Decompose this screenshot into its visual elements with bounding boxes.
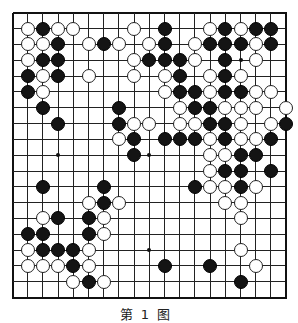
black-stone [36,101,50,115]
black-stone [158,259,172,273]
black-stone [97,180,111,194]
black-stone [82,211,96,225]
white-stone [203,164,217,178]
white-stone [21,53,35,67]
white-stone [234,101,248,115]
black-stone [234,85,248,99]
white-stone [112,132,126,146]
black-stone [203,259,217,273]
black-stone [218,132,232,146]
white-stone [97,275,111,289]
black-stone [234,164,248,178]
black-stone [218,22,232,36]
white-stone [234,132,248,146]
white-stone [36,211,50,225]
white-stone [188,53,202,67]
black-stone [51,211,65,225]
white-stone [97,211,111,225]
white-stone [36,69,50,83]
black-stone [203,117,217,131]
black-stone [218,69,232,83]
white-stone [112,196,126,210]
grid-line-vertical [270,13,271,299]
black-stone [173,85,187,99]
black-stone [66,243,80,257]
black-stone [97,196,111,210]
white-stone [97,227,111,241]
white-stone [127,69,141,83]
black-stone [173,69,187,83]
white-stone [82,243,96,257]
black-stone [173,53,187,67]
black-stone [112,101,126,115]
white-stone [188,117,202,131]
black-stone [158,37,172,51]
black-stone [36,22,50,36]
black-stone [218,53,232,67]
white-stone [112,37,126,51]
black-stone [279,117,293,131]
white-stone [127,22,141,36]
black-stone [203,101,217,115]
white-stone [82,69,96,83]
black-stone [158,22,172,36]
white-stone [142,117,156,131]
white-stone [51,22,65,36]
black-stone [21,85,35,99]
black-stone [218,37,232,51]
black-stone [264,37,278,51]
white-stone [249,37,263,51]
grid-line-vertical [118,13,119,299]
white-stone [21,22,35,36]
white-stone [249,180,263,194]
white-stone [249,85,263,99]
black-stone [158,132,172,146]
white-stone [249,53,263,67]
star-point [56,153,60,157]
white-stone [234,69,248,83]
diagram-caption: 第1图 [0,304,298,323]
white-stone [218,196,232,210]
white-stone [36,259,50,273]
black-stone [264,22,278,36]
black-stone [127,132,141,146]
white-stone [249,259,263,273]
white-stone [203,22,217,36]
white-stone [173,117,187,131]
white-stone [158,69,172,83]
white-stone [36,85,50,99]
black-stone [188,180,202,194]
black-stone [158,53,172,67]
white-stone [203,148,217,162]
white-stone [21,37,35,51]
white-stone [142,37,156,51]
white-stone [234,243,248,257]
white-stone [203,132,217,146]
white-stone [188,37,202,51]
black-stone [142,53,156,67]
black-stone [21,227,35,241]
black-stone [82,275,96,289]
star-point [147,153,151,157]
black-stone [51,69,65,83]
black-stone [97,37,111,51]
black-stone [188,85,202,99]
white-stone [279,101,293,115]
black-stone [234,180,248,194]
grid-line-vertical [285,13,287,299]
white-stone [51,259,65,273]
black-stone [51,243,65,257]
black-stone [218,164,232,178]
grid-line-horizontal [13,297,288,299]
white-stone [264,117,278,131]
white-stone [234,117,248,131]
white-stone [234,22,248,36]
grid-line-vertical [103,13,104,299]
grid-line-vertical [12,13,14,299]
black-stone [234,148,248,162]
black-stone [203,37,217,51]
black-stone [36,180,50,194]
black-stone [264,164,278,178]
white-stone [66,22,80,36]
white-stone [234,196,248,210]
